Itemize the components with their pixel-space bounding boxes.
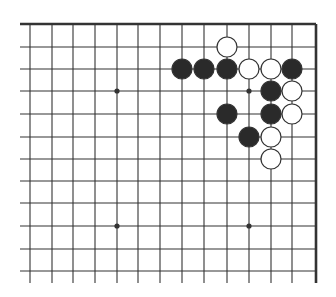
- stones: [172, 37, 302, 169]
- black-stone: [239, 127, 259, 147]
- star-point: [114, 88, 119, 93]
- black-stone: [194, 59, 214, 79]
- black-stone: [261, 81, 281, 101]
- black-stone: [217, 104, 237, 124]
- black-stone: [172, 59, 192, 79]
- go-board: [0, 0, 336, 297]
- white-stone: [282, 81, 302, 101]
- white-stone: [282, 104, 302, 124]
- black-stone: [261, 104, 281, 124]
- black-stone: [217, 59, 237, 79]
- star-point: [114, 223, 119, 228]
- star-point: [246, 88, 251, 93]
- star-point: [246, 223, 251, 228]
- white-stone: [239, 59, 259, 79]
- white-stone: [261, 127, 281, 147]
- black-stone: [282, 59, 302, 79]
- white-stone: [261, 149, 281, 169]
- white-stone: [261, 59, 281, 79]
- white-stone: [217, 37, 237, 57]
